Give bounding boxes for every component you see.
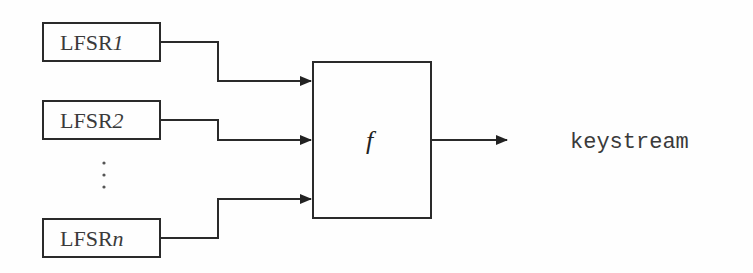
arrow-lfsr2-to-f [160,120,311,140]
svg-text:LFSR2: LFSR2 [60,108,124,133]
arrow-lfsrn-to-f [160,199,311,238]
lfsr-2-index: 2 [113,108,124,133]
lfsr-n-box: LFSRn [43,219,160,257]
lfsr-1-index: 1 [113,30,124,55]
lfsr-n-index: n [113,226,124,251]
lfsr-n-label: LFSR [60,226,113,251]
lfsr-combiner-diagram: LFSR1 LFSR2 LFSRn f keystream [0,0,753,273]
lfsr-2-label: LFSR [60,108,113,133]
combining-function-box: f [313,62,431,218]
lfsr-1-label: LFSR [60,30,113,55]
svg-text:LFSR1: LFSR1 [60,30,124,55]
diagram-canvas: LFSR1 LFSR2 LFSRn f keystream [0,0,753,273]
arrow-lfsr1-to-f [160,42,311,81]
svg-text:LFSRn: LFSRn [60,226,124,251]
lfsr-1-box: LFSR1 [43,23,160,61]
ellipsis-dots [102,161,105,188]
output-label: keystream [570,130,689,155]
function-label: f [366,126,377,155]
lfsr-2-box: LFSR2 [43,101,160,139]
